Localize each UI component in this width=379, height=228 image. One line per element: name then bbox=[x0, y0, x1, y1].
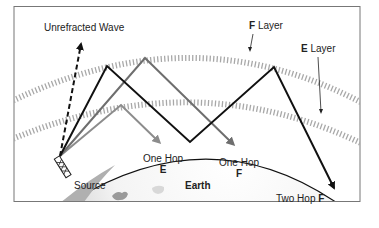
source-label: Source bbox=[74, 180, 106, 191]
earth-label: Earth bbox=[185, 180, 211, 191]
continent-shape bbox=[77, 203, 133, 227]
e-layer-letter: E bbox=[301, 43, 308, 54]
one-hop-f-label: One Hop F bbox=[217, 157, 261, 179]
e-layer-word: Layer bbox=[310, 43, 335, 54]
two-hop-f-text: Two Hop bbox=[276, 193, 315, 204]
e-layer-label: E Layer bbox=[301, 43, 335, 54]
two-hop-f-label: Two Hop F bbox=[276, 193, 324, 204]
f-layer-label: F Layer bbox=[249, 20, 283, 31]
f-layer-word: Layer bbox=[258, 20, 283, 31]
one-hop-e-line1: One Hop bbox=[141, 153, 185, 164]
unrefracted-wave-label: Unrefracted Wave bbox=[44, 22, 124, 33]
one-hop-e-label: One Hop E bbox=[141, 153, 185, 175]
f-layer-letter: F bbox=[249, 20, 255, 31]
one-hop-e-line2: E bbox=[141, 164, 185, 175]
two-hop-f-letter: F bbox=[318, 193, 324, 204]
one-hop-f-line2: F bbox=[217, 168, 261, 179]
one-hop-f-line1: One Hop bbox=[217, 157, 261, 168]
